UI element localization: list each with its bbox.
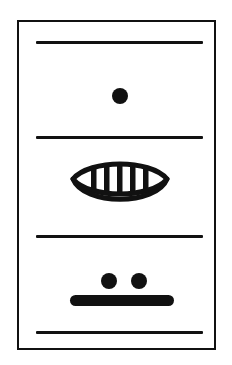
pictograph-panel: Pictographic Panel: [0, 0, 232, 365]
single-dot-glyph: [112, 88, 128, 104]
register-two: [19, 136, 214, 235]
register-three: [19, 235, 214, 331]
left-dot-glyph: [101, 273, 117, 289]
register-one: [19, 41, 214, 136]
striped-eye-svg: [68, 152, 172, 214]
right-dot-glyph: [131, 273, 147, 289]
thick-bar-glyph: [70, 295, 174, 306]
divider-rule-4: [36, 331, 203, 334]
panel-frame: [17, 20, 216, 350]
striped-eye-icon: [68, 152, 172, 214]
page-title: Pictographic Panel: [0, 0, 1, 1]
